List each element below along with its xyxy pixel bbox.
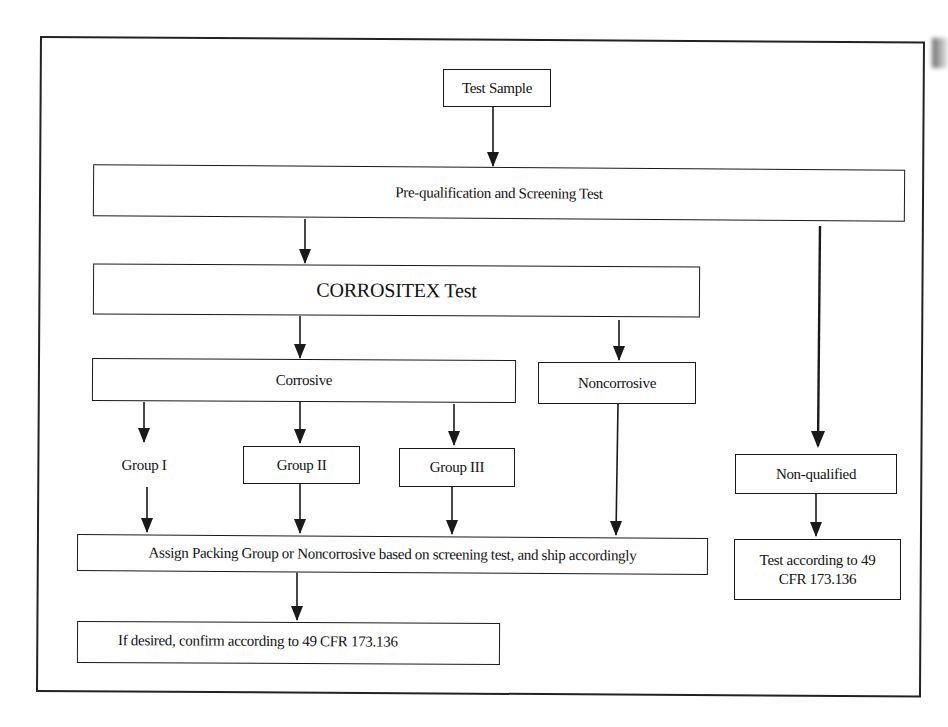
node-test-sample: Test Sample <box>443 69 551 107</box>
node-group-3: Group III <box>399 448 515 487</box>
node-group-1: Group I <box>104 450 184 480</box>
node-assign-packing-group: Assign Packing Group or Noncorrosive bas… <box>77 534 708 575</box>
page-edge-shadow <box>932 38 948 68</box>
node-group-2: Group II <box>243 446 360 484</box>
node-label: Group I <box>122 456 167 475</box>
node-label: Assign Packing Group or Noncorrosive bas… <box>149 544 637 566</box>
node-label: CORROSITEX Test <box>316 278 476 304</box>
node-noncorrosive: Noncorrosive <box>538 362 696 404</box>
node-label: If desired, confirm according to 49 CFR … <box>118 631 398 651</box>
node-label: Pre-qualification and Screening Test <box>395 183 603 203</box>
node-corrosive: Corrosive <box>92 358 516 403</box>
node-confirm-cfr: If desired, confirm according to 49 CFR … <box>77 621 500 665</box>
node-label: Test according to 49 CFR 173.136 <box>747 551 888 589</box>
node-label: Corrosive <box>276 371 333 390</box>
node-non-qualified: Non-qualified <box>735 454 897 494</box>
node-label: Group II <box>277 456 327 475</box>
node-label: Group III <box>430 458 484 477</box>
node-corrositex-test: CORROSITEX Test <box>93 263 700 317</box>
node-test-according-cfr: Test according to 49 CFR 173.136 <box>734 539 901 600</box>
node-label: Noncorrosive <box>578 374 656 393</box>
node-label: Test Sample <box>462 79 532 98</box>
node-label: Non-qualified <box>776 465 856 484</box>
node-prequalification: Pre-qualification and Screening Test <box>93 164 905 222</box>
